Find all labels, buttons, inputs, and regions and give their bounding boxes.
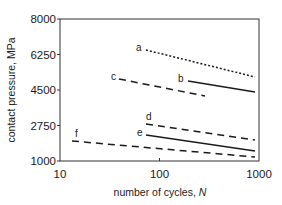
- x-axis-title-variable: N: [199, 186, 207, 198]
- x-tick-label-1000: 1000: [246, 168, 272, 180]
- series-labels: a b c d e f: [75, 42, 184, 139]
- y-tick-label-2750: 2750: [30, 120, 56, 132]
- plot-area-frame: [60, 19, 259, 161]
- series-e-label: e: [137, 127, 143, 138]
- series-d-label: d: [146, 111, 152, 122]
- x-axis-title: number of cycles, N: [114, 186, 207, 198]
- series-f-label: f: [75, 128, 78, 139]
- y-tick-label-8000: 8000: [30, 13, 56, 25]
- series-b-label: b: [178, 73, 184, 84]
- series-lines: [72, 50, 255, 157]
- y-tick-label-4500: 4500: [30, 84, 56, 96]
- y-tick-label-6250: 6250: [30, 49, 56, 61]
- series-b-line: [188, 81, 255, 92]
- series-a-line: [146, 50, 255, 77]
- series-c-label: c: [111, 71, 116, 82]
- y-axis-title: contact pressure, MPa: [5, 37, 17, 142]
- x-axis-title-text: number of cycles,: [114, 186, 199, 198]
- x-tick-label-10: 10: [54, 168, 67, 180]
- x-tick-label-100: 100: [150, 168, 169, 180]
- chart: 8000 6250 4500 2750 1000 10 100 1000 num…: [0, 0, 282, 205]
- series-f-line: [72, 141, 255, 157]
- series-a-label: a: [136, 42, 142, 53]
- y-axis: 8000 6250 4500 2750 1000: [30, 13, 60, 167]
- y-tick-label-1000: 1000: [30, 155, 56, 167]
